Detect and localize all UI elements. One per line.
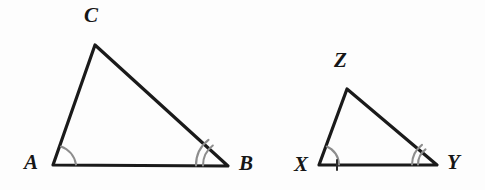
vertex-label-b: B xyxy=(239,153,253,174)
angle-arc-a xyxy=(61,147,76,165)
vertex-label-y: Y xyxy=(447,152,460,173)
vertex-label-c: C xyxy=(84,5,98,26)
geometry-figure-canvas: A B C X Y Z xyxy=(0,0,485,190)
vertex-label-a: A xyxy=(24,152,38,173)
vertex-label-x: X xyxy=(294,154,308,175)
vertex-label-z: Z xyxy=(334,50,347,71)
